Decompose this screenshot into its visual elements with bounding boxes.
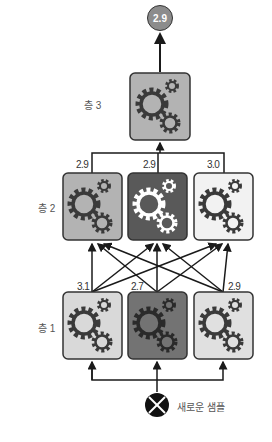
layer1-node-3-value: 2.9 [228, 281, 240, 292]
layer1-node-2 [128, 292, 187, 359]
input-label: 새로운 샘플 [177, 399, 225, 414]
layer2-node-3 [194, 173, 253, 240]
input-to-layer1-connectors [92, 362, 223, 392]
layer2-node-2 [128, 173, 187, 240]
layer2-node-3-value: 3.0 [207, 159, 219, 170]
layer2-node-2-value: 2.9 [143, 159, 155, 170]
x-circle-icon [145, 393, 169, 417]
layer1-to-layer2-connectors [92, 244, 228, 292]
layer2-node-1 [63, 173, 122, 240]
ensemble-diagram [0, 0, 272, 442]
layer2-label: 층 2 [38, 200, 55, 215]
layer1-node-1 [63, 292, 122, 359]
layer1-node-3 [194, 292, 253, 359]
layer3-node [130, 73, 190, 140]
layer1-node-1-value: 3.1 [77, 281, 89, 292]
layer2-node-1-value: 2.9 [76, 159, 88, 170]
layer2-to-layer3-connectors [92, 143, 224, 173]
layer3-label: 층 3 [84, 97, 101, 112]
output-value: 2.9 [147, 5, 173, 31]
layer1-node-2-value: 2.7 [131, 281, 143, 292]
layer1-label: 층 1 [38, 320, 55, 335]
